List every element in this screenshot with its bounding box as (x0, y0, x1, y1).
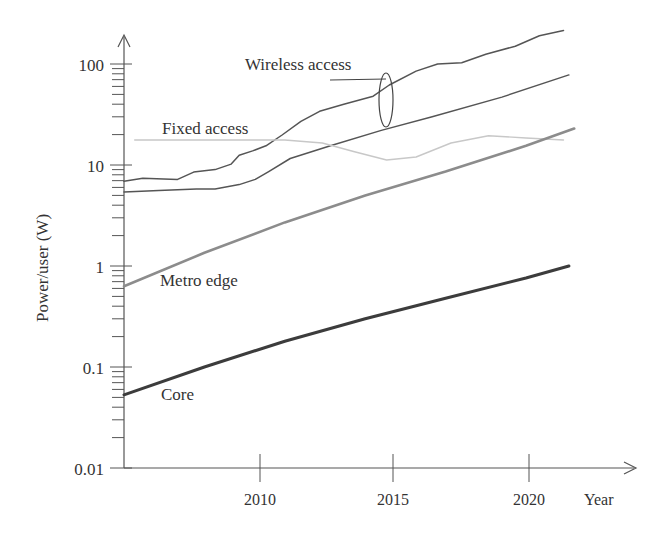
x-axis-label: Year (584, 491, 614, 508)
y-tick-labels: 100 10 1 0.1 0.01 (74, 56, 104, 479)
y-tick-label-0.01: 0.01 (74, 460, 104, 479)
label-fixed-access: Fixed access (162, 119, 248, 138)
label-wireless-access: Wireless access (245, 55, 351, 74)
y-tick-label-1: 1 (96, 258, 105, 277)
series-metro-edge (124, 129, 574, 287)
series-lines (124, 30, 574, 394)
x-axis (124, 462, 636, 474)
x-tick-label-2020: 2020 (513, 491, 545, 508)
label-core: Core (161, 385, 194, 404)
series-fixed-access (135, 136, 564, 160)
y-tick-label-0.1: 0.1 (83, 359, 104, 378)
x-tick-label-2015: 2015 (377, 491, 409, 508)
x-tick-labels: 2010 2015 2020 (244, 491, 545, 508)
y-tick-label-100: 100 (79, 56, 105, 75)
y-tick-label-10: 10 (87, 157, 104, 176)
label-metro-edge: Metro edge (160, 271, 238, 290)
power-per-user-chart: 100 10 1 0.1 0.01 2010 2015 2020 Year Po… (0, 0, 669, 544)
y-axis-ticks (110, 64, 132, 468)
chart-container: 100 10 1 0.1 0.01 2010 2015 2020 Year Po… (0, 0, 669, 544)
y-axis (118, 35, 130, 468)
y-axis-label: Power/user (W) (33, 214, 52, 322)
series-wireless-access-upper (124, 30, 564, 181)
x-tick-label-2010: 2010 (244, 491, 276, 508)
